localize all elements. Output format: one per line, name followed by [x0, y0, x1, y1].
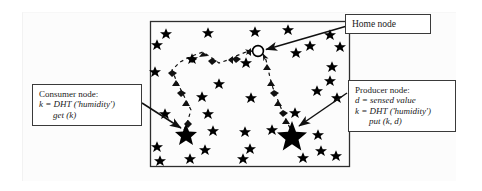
consumer-callout-leader — [142, 103, 181, 128]
star-node — [245, 92, 257, 103]
star-node — [202, 27, 214, 38]
star-node — [154, 155, 166, 166]
home-callout-line-1: Home node — [352, 19, 430, 30]
star-node — [297, 152, 309, 163]
star-node — [240, 57, 252, 68]
star-node — [239, 126, 251, 137]
home-node-circle — [253, 46, 264, 57]
producer-callout-line-2: d = sensed value — [355, 95, 455, 105]
sensor-node-star-field — [149, 24, 346, 166]
star-node — [324, 75, 336, 86]
star-node — [202, 108, 214, 119]
consumer-callout-line-3: get (k) — [39, 110, 141, 120]
producer-callout-leader — [299, 93, 347, 126]
producer-node-star — [277, 121, 307, 151]
star-node — [213, 78, 225, 89]
star-node — [237, 153, 249, 164]
star-node — [151, 39, 163, 50]
star-node — [290, 47, 302, 58]
star-node — [289, 107, 301, 118]
star-node — [244, 143, 256, 154]
consumer-node-callout: Consumer node: k = DHT ('humidity') get … — [32, 84, 142, 126]
star-node — [304, 40, 316, 51]
star-node — [315, 145, 327, 156]
star-node — [266, 124, 278, 135]
producer-callout-line-1: Producer node: — [355, 85, 455, 95]
star-node — [199, 144, 211, 155]
consumer-callout-line-1: Consumer node: — [39, 89, 141, 99]
star-node — [334, 41, 346, 52]
star-node — [151, 141, 163, 152]
consumer-callout-line-2: k = DHT ('humidity') — [39, 99, 141, 109]
star-node — [196, 91, 208, 102]
route-producer-to-home — [263, 54, 290, 128]
star-node — [282, 24, 294, 35]
star-node — [160, 28, 172, 39]
star-node — [312, 129, 324, 140]
star-node — [330, 150, 342, 161]
star-node — [326, 61, 338, 72]
producer-node-callout: Producer node: d = sensed value k = DHT … — [348, 80, 456, 132]
producer-callout-line-4: put (k, d) — [355, 116, 455, 126]
star-node — [249, 26, 261, 37]
figure-container: Home node Consumer node: k = DHT ('humid… — [0, 0, 482, 191]
star-node — [311, 85, 323, 96]
star-node — [207, 125, 219, 136]
home-node-callout: Home node — [345, 14, 431, 34]
producer-callout-line-3: k = DHT ('humidity') — [355, 106, 455, 116]
star-node — [184, 153, 196, 164]
